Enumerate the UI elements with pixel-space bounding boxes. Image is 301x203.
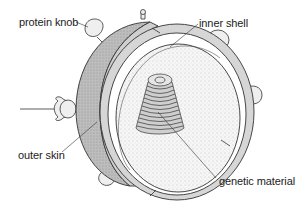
virus-diagram: protein knob inner shell outer skin gene… xyxy=(0,0,301,203)
label-genetic-material: genetic material xyxy=(219,175,295,187)
virus-illustration xyxy=(0,0,301,203)
label-outer-skin: outer skin xyxy=(18,149,65,161)
label-protein-knob: protein knob xyxy=(19,16,78,28)
label-inner-shell: inner shell xyxy=(199,17,248,29)
